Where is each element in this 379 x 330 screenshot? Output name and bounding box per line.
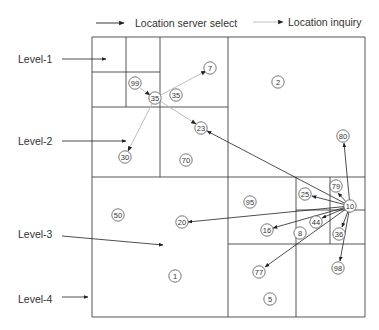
server-node: 23 <box>195 122 207 134</box>
server-node: 1 <box>169 270 181 282</box>
node-label: 50 <box>114 211 122 220</box>
node-label: 70 <box>182 156 190 165</box>
legend-inquiry: Location inquiry <box>253 16 362 28</box>
level-label: Level-3 <box>18 228 53 240</box>
legend-select-label: Location server select <box>135 17 237 29</box>
level-pointer-arrow <box>62 236 163 245</box>
node-label: 30 <box>121 153 129 162</box>
server-node: 20 <box>176 216 188 228</box>
location-server-hierarchy-diagram: Location server select Location inquiry … <box>0 0 379 330</box>
server-node: 77 <box>253 266 265 278</box>
node-label: 2 <box>276 78 280 87</box>
server-node: 95 <box>244 196 256 208</box>
server-node: 30 <box>119 151 131 163</box>
server-nodes: 7993535223307080792595105020441683698771… <box>112 62 356 305</box>
server-node: 35 <box>170 89 182 101</box>
node-label: 98 <box>334 264 342 273</box>
server-node: 70 <box>180 154 192 166</box>
node-label: 79 <box>332 182 340 191</box>
inquiry-arrow <box>140 88 150 95</box>
server-node: 98 <box>332 262 344 274</box>
server-node: 79 <box>330 180 342 192</box>
select-arrow <box>188 206 350 222</box>
server-node: 5 <box>264 293 276 305</box>
server-node: 25 <box>299 188 311 200</box>
server-node: 7 <box>204 62 216 74</box>
level-labels: Level-1Level-2Level-3Level-4 <box>18 53 163 305</box>
server-node: 8 <box>294 227 306 239</box>
node-label: 36 <box>335 230 343 239</box>
node-label: 77 <box>255 268 263 277</box>
level-label: Level-2 <box>18 135 53 147</box>
node-label: 80 <box>339 132 347 141</box>
node-label: 95 <box>246 198 254 207</box>
node-label: 16 <box>263 226 271 235</box>
level-label: Level-4 <box>18 293 53 305</box>
legend-select: Location server select <box>96 17 237 29</box>
server-node: 50 <box>112 209 124 221</box>
diagram: Location server select Location inquiry … <box>0 0 379 330</box>
server-node: 2 <box>272 76 284 88</box>
node-label: 25 <box>301 190 309 199</box>
server-node: 99 <box>129 77 141 89</box>
server-node: 16 <box>261 224 273 236</box>
node-label: 44 <box>312 218 320 227</box>
node-label: 35 <box>151 94 159 103</box>
node-label: 23 <box>197 124 205 133</box>
server-node: 35 <box>149 92 161 104</box>
select-arrows <box>188 131 350 267</box>
inquiry-arrow <box>128 98 155 151</box>
node-label: 5 <box>268 295 272 304</box>
server-node: 36 <box>333 228 345 240</box>
legend-inquiry-label: Location inquiry <box>288 16 362 28</box>
select-arrow <box>344 143 350 206</box>
node-label: 35 <box>172 91 180 100</box>
node-label: 10 <box>346 202 354 211</box>
node-label: 1 <box>173 272 177 281</box>
node-label: 8 <box>298 229 302 238</box>
server-node: 80 <box>337 130 349 142</box>
legend: Location server select Location inquiry <box>96 16 362 29</box>
level-label: Level-1 <box>18 53 53 65</box>
server-node: 44 <box>310 216 322 228</box>
node-label: 20 <box>178 218 186 227</box>
inquiry-arrow <box>160 101 196 124</box>
node-label: 7 <box>208 64 212 73</box>
node-label: 99 <box>131 79 139 88</box>
server-node: 10 <box>344 200 356 212</box>
